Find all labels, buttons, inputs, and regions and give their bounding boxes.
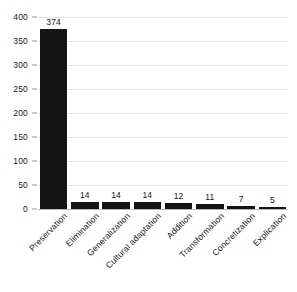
bar-item: 374: [38, 17, 69, 209]
bar-rect: [259, 207, 287, 209]
bar-item: 12: [163, 17, 194, 209]
y-axis-tick-mark: [32, 137, 37, 138]
bar-rect: [134, 202, 162, 209]
bar-value-label: 5: [257, 195, 288, 205]
x-axis-labels: PreservationEliminationGeneralizationCul…: [38, 211, 288, 291]
y-axis-tick-mark: [32, 209, 37, 210]
y-axis-tick-label: 200: [0, 108, 28, 118]
bar-rect: [196, 204, 224, 209]
y-axis-tick-mark: [32, 185, 37, 186]
bar-rect: [40, 29, 68, 209]
axis-baseline: [38, 209, 288, 210]
bar-item: 11: [194, 17, 225, 209]
bar-chart: 050100150200250300350400 374141414121175…: [0, 0, 297, 292]
y-axis-tick-mark: [32, 161, 37, 162]
bar-rect: [102, 202, 130, 209]
y-axis-tick-mark: [32, 65, 37, 66]
bar-value-label: 374: [38, 17, 69, 27]
bar-item: 14: [101, 17, 132, 209]
bar-item: 14: [132, 17, 163, 209]
bar-rect: [165, 203, 193, 209]
y-axis-tick-label: 300: [0, 60, 28, 70]
y-axis-tick-label: 350: [0, 36, 28, 46]
y-axis-tick-label: 50: [0, 180, 28, 190]
bar-value-label: 14: [132, 190, 163, 200]
bar-item: 5: [257, 17, 288, 209]
y-axis-tick-label: 0: [0, 204, 28, 214]
y-axis-tick-label: 100: [0, 156, 28, 166]
bar-value-label: 14: [69, 190, 100, 200]
x-axis-category-label: Addition: [165, 211, 195, 241]
y-axis-tick-mark: [32, 17, 37, 18]
bar-item: 7: [226, 17, 257, 209]
x-axis-category-label: Cultural adaptation: [104, 211, 163, 270]
bar-value-label: 14: [101, 190, 132, 200]
bar-value-label: 12: [163, 191, 194, 201]
bars-group: 374141414121175: [38, 17, 288, 209]
bar-value-label: 11: [194, 192, 225, 202]
y-axis-tick-label: 150: [0, 132, 28, 142]
bar-item: 14: [69, 17, 100, 209]
y-axis-tick-label: 400: [0, 12, 28, 22]
y-axis-tick-mark: [32, 113, 37, 114]
y-axis-tick-mark: [32, 41, 37, 42]
x-axis-category-label: Preservation: [27, 211, 69, 253]
bar-rect: [71, 202, 99, 209]
y-axis-tick-label: 250: [0, 84, 28, 94]
bar-rect: [227, 206, 255, 209]
y-axis-tick-mark: [32, 89, 37, 90]
bar-value-label: 7: [226, 194, 257, 204]
